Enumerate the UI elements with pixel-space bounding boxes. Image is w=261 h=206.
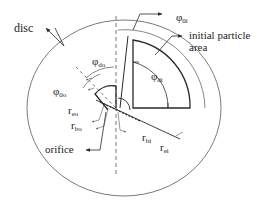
- r-eo-leader: [92, 105, 104, 122]
- phi-do-label: φdo: [92, 52, 105, 69]
- initial-particle-area-label-line2: area: [189, 42, 207, 53]
- initial-particle-area-label-line1: initial particle: [189, 30, 250, 41]
- r-bi-label: rbi: [142, 128, 151, 145]
- phi-0o-leader: [88, 88, 94, 90]
- disc-leader: [46, 28, 64, 46]
- orifice-leader: [86, 112, 106, 150]
- phi-di-label: φdi: [151, 67, 163, 84]
- r-ei-label: rei: [160, 138, 169, 155]
- phi-0o-label: φ0o: [53, 82, 66, 99]
- initial-area-leader: [155, 36, 182, 55]
- r-ei-tick: [176, 132, 183, 136]
- r-bo-label: rbo: [71, 116, 82, 133]
- disc-label: disc: [14, 22, 33, 34]
- center-axis-diagonal: [76, 67, 118, 110]
- radius-line: [96, 100, 180, 139]
- r-bi-leader: [118, 112, 126, 132]
- orifice-label: orifice: [45, 144, 74, 155]
- phi-0i-leader: [133, 14, 162, 30]
- disc-leader-line: [55, 28, 64, 46]
- center-semicircle: [118, 98, 130, 110]
- phi-0i-label: φ0i: [176, 8, 188, 25]
- disc-diagram: disc φ0i initial particle area φdi φdo φ…: [0, 0, 261, 206]
- phi-0o-arc: [83, 74, 100, 88]
- radial-line: [120, 36, 128, 108]
